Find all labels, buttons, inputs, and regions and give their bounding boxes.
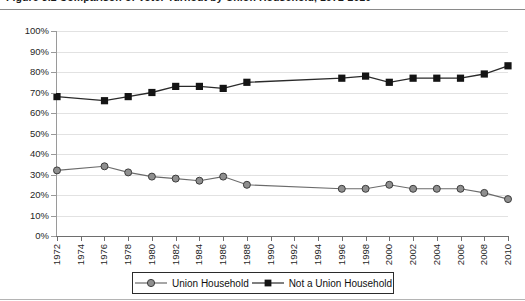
x-axis-tick bbox=[223, 236, 224, 241]
x-axis-tick bbox=[366, 236, 367, 241]
circle-marker-icon bbox=[134, 277, 168, 289]
y-axis-tick bbox=[51, 134, 56, 135]
y-axis-tick bbox=[51, 113, 56, 114]
data-point-circle bbox=[433, 185, 440, 192]
data-point-square bbox=[196, 83, 203, 90]
x-axis-tick bbox=[413, 236, 414, 241]
x-axis-tick bbox=[104, 236, 105, 241]
chart-legend: Union Household Not a Union Household bbox=[132, 272, 394, 294]
data-point-square bbox=[125, 93, 132, 100]
data-point-square bbox=[433, 75, 440, 82]
bottom-divider bbox=[0, 299, 525, 300]
data-point-square bbox=[410, 75, 417, 82]
legend-label-non-union: Not a Union Household bbox=[289, 278, 392, 289]
x-axis-tick bbox=[81, 236, 82, 241]
data-point-square bbox=[243, 79, 250, 86]
y-axis-tick bbox=[51, 175, 56, 176]
y-axis-tick bbox=[51, 52, 56, 53]
data-point-circle bbox=[338, 185, 345, 192]
data-point-square bbox=[148, 89, 155, 96]
data-point-circle bbox=[505, 196, 512, 203]
data-point-square bbox=[101, 97, 108, 104]
data-point-square bbox=[362, 73, 369, 80]
x-axis-tick bbox=[342, 236, 343, 241]
data-point-circle bbox=[243, 181, 250, 188]
y-axis-tick bbox=[51, 72, 56, 73]
data-point-circle bbox=[481, 189, 488, 196]
y-axis-tick bbox=[51, 154, 56, 155]
y-axis-tick bbox=[51, 195, 56, 196]
x-axis-tick bbox=[318, 236, 319, 241]
data-point-circle bbox=[148, 173, 155, 180]
data-point-circle bbox=[362, 185, 369, 192]
x-axis-tick bbox=[152, 236, 153, 241]
x-axis-tick bbox=[271, 236, 272, 241]
x-axis-tick bbox=[247, 236, 248, 241]
plot-area bbox=[0, 0, 525, 301]
series-non-union bbox=[53, 62, 511, 104]
data-point-square bbox=[481, 70, 488, 77]
data-point-square bbox=[53, 93, 60, 100]
legend-item-non-union: Not a Union Household bbox=[251, 277, 392, 289]
data-point-square bbox=[220, 85, 227, 92]
x-axis-tick bbox=[484, 236, 485, 241]
x-axis-tick bbox=[389, 236, 390, 241]
x-axis-tick bbox=[128, 236, 129, 241]
legend-item-union: Union Household bbox=[134, 277, 249, 289]
x-axis-tick bbox=[508, 236, 509, 241]
data-point-square bbox=[172, 83, 179, 90]
x-axis-tick bbox=[199, 236, 200, 241]
data-point-square bbox=[338, 75, 345, 82]
data-point-circle bbox=[125, 169, 132, 176]
data-point-square bbox=[504, 62, 511, 69]
x-axis-tick bbox=[437, 236, 438, 241]
series-union bbox=[54, 163, 512, 203]
data-point-circle bbox=[220, 173, 227, 180]
legend-label-union: Union Household bbox=[172, 278, 249, 289]
data-point-circle bbox=[196, 177, 203, 184]
data-point-circle bbox=[457, 185, 464, 192]
data-point-circle bbox=[101, 163, 108, 170]
y-axis-tick bbox=[51, 216, 56, 217]
data-point-circle bbox=[54, 167, 61, 174]
y-axis-tick bbox=[51, 236, 56, 237]
square-marker-icon bbox=[251, 277, 285, 289]
figure-container: Figure 3.2 Comparison of Voter Turnout b… bbox=[0, 0, 525, 301]
data-point-square bbox=[457, 75, 464, 82]
data-point-circle bbox=[410, 185, 417, 192]
x-axis-tick bbox=[57, 236, 58, 241]
y-axis-tick bbox=[51, 31, 56, 32]
data-point-circle bbox=[386, 181, 393, 188]
data-point-circle bbox=[172, 175, 179, 182]
x-axis-tick bbox=[176, 236, 177, 241]
data-point-square bbox=[386, 79, 393, 86]
y-axis-tick bbox=[51, 93, 56, 94]
x-axis-tick bbox=[461, 236, 462, 241]
x-axis-tick bbox=[294, 236, 295, 241]
